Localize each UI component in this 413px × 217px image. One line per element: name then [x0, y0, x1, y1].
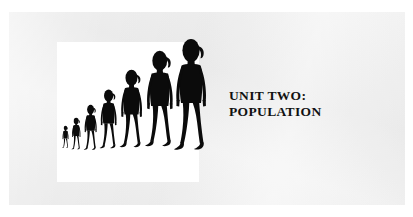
figure-3 — [84, 105, 97, 150]
population-figures-illustration[interactable] — [53, 40, 213, 200]
figure-2 — [71, 118, 80, 150]
figure-4 — [100, 89, 117, 148]
figure-1-smallest — [62, 126, 68, 148]
slide-canvas: UNIT TWO: POPULATION — [9, 12, 405, 205]
figure-7-largest — [174, 39, 206, 150]
slide-title-line-2: POPULATION — [229, 104, 394, 120]
figure-6 — [145, 51, 173, 147]
slide-title[interactable]: UNIT TWO: POPULATION — [229, 88, 394, 120]
slide-page: UNIT TWO: POPULATION — [0, 0, 413, 217]
slide-title-line-1: UNIT TWO: — [229, 88, 394, 104]
figure-5 — [120, 70, 142, 148]
